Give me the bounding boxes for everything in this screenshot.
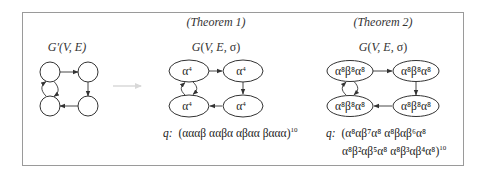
panel-original-graph: G'(V, E)	[40, 40, 98, 116]
graph-node	[78, 96, 98, 116]
graph-label: G(V, E, σ)	[192, 40, 240, 54]
graph-node	[78, 62, 98, 82]
figure: G'(V, E) (Theorem 1) G(V, E, σ) α4 α4 α4…	[0, 0, 485, 173]
q-expression: q: (α⁸αβ⁷α⁸ α⁸βαβ⁶α⁸	[326, 127, 426, 140]
q-expression-line-2: α⁸β²αβ⁵α⁸ α⁸β³αβ⁴α⁸)10	[342, 144, 447, 158]
graph-edge	[193, 82, 197, 95]
node-label: α⁸β⁸α⁸	[401, 65, 431, 78]
graph-edge	[181, 83, 185, 96]
node-label: α⁸β⁸α⁸	[335, 65, 365, 78]
graph-node	[40, 62, 60, 82]
graph-edge	[54, 82, 58, 97]
panel-heading: (Theorem 1)	[186, 15, 245, 29]
graph-edge	[342, 82, 346, 95]
panel-heading: (Theorem 2)	[353, 15, 412, 29]
node-label: α⁸β⁸α⁸	[335, 100, 365, 113]
q-expression: q: (αααβ ααβα αβαα βααα)10	[163, 126, 298, 140]
graph-label: G'(V, E)	[48, 40, 86, 54]
graph-edge	[42, 82, 46, 97]
panel-theorem-2: (Theorem 2) G(V, E, σ) α⁸β⁸α⁸ α⁸β⁸α⁸ α⁸β…	[326, 15, 447, 158]
panel-theorem-1: (Theorem 1) G(V, E, σ) α4 α4 α4 α4 q: (α…	[163, 15, 298, 140]
graph-node	[40, 96, 60, 116]
graph-edge	[354, 82, 358, 96]
node-label: α⁸β⁸α⁸	[401, 100, 431, 113]
graph-label: G(V, E, σ)	[359, 40, 407, 54]
